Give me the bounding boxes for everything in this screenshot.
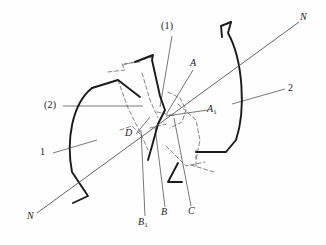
dashed-construction-path-0 xyxy=(108,62,140,72)
section-axis-N-N xyxy=(37,22,299,213)
leader-part-2 xyxy=(232,89,285,104)
technical-diagram: (1) (2) A A1 D B1 B C 1 2 N N xyxy=(0,0,326,245)
leader-point-B xyxy=(155,127,165,207)
label-part-1: 1 xyxy=(40,147,45,157)
dashed-construction-lines xyxy=(108,57,214,172)
label-part-2: 2 xyxy=(288,83,293,93)
section-axis-line xyxy=(37,22,299,213)
dashed-construction-path-9 xyxy=(166,146,205,166)
center-blade-upper-outline xyxy=(135,55,165,160)
leader-point-C xyxy=(174,118,191,206)
leader-lines xyxy=(53,36,285,216)
leader-part-1 xyxy=(53,140,97,153)
label-point-A: A xyxy=(190,58,196,68)
label-callout-2: (2) xyxy=(44,100,56,110)
leader-point-A1 xyxy=(166,110,208,116)
label-axis-n-top: N xyxy=(300,12,307,22)
part-2-outline xyxy=(196,22,242,152)
part-1-outline xyxy=(70,88,92,203)
label-point-B: B xyxy=(161,207,167,217)
label-point-C: C xyxy=(188,206,195,216)
dashed-construction-path-10 xyxy=(191,165,214,172)
leader-point-A xyxy=(167,70,193,113)
label-axis-n-bottom: N xyxy=(27,211,34,221)
label-callout-1: (1) xyxy=(161,21,173,31)
leader-point-D xyxy=(136,117,150,134)
label-point-D: D xyxy=(125,128,132,138)
leader-callout-1 xyxy=(160,36,172,107)
part-1-top-edge xyxy=(92,80,140,97)
center-blade-lower-outline xyxy=(168,163,182,182)
label-point-A1: A1 xyxy=(207,104,217,116)
dashed-construction-path-4 xyxy=(168,92,186,128)
label-point-B1: B1 xyxy=(138,217,148,229)
